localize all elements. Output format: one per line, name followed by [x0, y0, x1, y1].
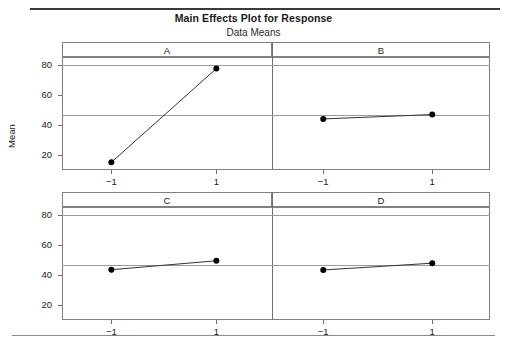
data-point-d [320, 267, 326, 273]
data-point-a [213, 66, 219, 72]
data-point-c [108, 267, 114, 273]
series-line-b [323, 115, 432, 119]
series-overlay [0, 0, 507, 354]
data-point-a [108, 159, 114, 165]
data-point-c [213, 258, 219, 264]
main-effects-plot-figure: Main Effects Plot for Response Data Mean… [0, 0, 507, 354]
bottom-divider-rule [12, 335, 495, 336]
series-line-a [111, 69, 216, 163]
series-line-c [111, 261, 216, 270]
data-point-b [429, 112, 435, 118]
data-point-d [429, 260, 435, 266]
series-line-d [323, 263, 432, 270]
data-point-b [320, 116, 326, 122]
